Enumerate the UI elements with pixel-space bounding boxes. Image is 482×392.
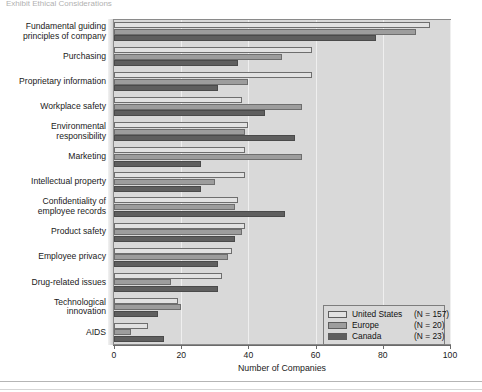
- bar-us-3: [114, 97, 242, 103]
- bar-us-7: [114, 197, 238, 203]
- legend-n-united-states: (N = 157): [414, 309, 449, 319]
- category-label-line: Intellectual property: [0, 177, 106, 187]
- category-label-10: Drug-related issues: [0, 278, 106, 288]
- bar-eu-10: [114, 279, 171, 285]
- bar-group-0: [113, 19, 451, 44]
- bar-eu-1: [114, 54, 282, 60]
- bar-group-4: [113, 119, 451, 144]
- category-label-11: Technologicalinnovation: [0, 298, 106, 317]
- category-label-8: Product safety: [0, 227, 106, 237]
- category-label-line: Purchasing: [0, 52, 106, 62]
- bar-eu-2: [114, 79, 248, 85]
- bar-group-2: [113, 69, 451, 94]
- category-label-line: AIDS: [0, 328, 106, 338]
- category-label-4: Environmentalresponsibility: [0, 122, 106, 141]
- x-tick-label-60: 60: [301, 350, 331, 360]
- x-tick-label-100: 100: [435, 350, 465, 360]
- bar-us-5: [114, 147, 245, 153]
- bar-group-6: [113, 169, 451, 194]
- category-label-3: Workplace safety: [0, 102, 106, 112]
- chart-figure: Fundamental guidingprinciples of company…: [0, 8, 482, 380]
- bar-us-11: [114, 298, 178, 304]
- bar-group-3: [113, 94, 451, 119]
- bar-eu-6: [114, 179, 215, 185]
- category-label-7: Confidentiality ofemployee records: [0, 197, 106, 216]
- bar-eu-9: [114, 254, 228, 260]
- category-label-line: Drug-related issues: [0, 278, 106, 288]
- legend-swatch-europe: [328, 322, 347, 329]
- legend-n-europe: (N = 20): [414, 320, 445, 330]
- bar-us-0: [114, 22, 430, 28]
- bar-us-9: [114, 248, 232, 254]
- category-label-5: Marketing: [0, 152, 106, 162]
- x-tick-label-80: 80: [368, 350, 398, 360]
- bar-group-9: [113, 245, 451, 270]
- bar-ca-6: [114, 186, 201, 192]
- category-label-line: Marketing: [0, 152, 106, 162]
- category-label-line: principles of company: [0, 32, 106, 42]
- legend-item-canada: Canada (N = 23): [328, 331, 440, 341]
- bar-eu-7: [114, 204, 235, 210]
- bar-ca-11: [114, 311, 158, 317]
- bar-eu-11: [114, 304, 181, 310]
- bar-eu-3: [114, 104, 302, 110]
- bar-ca-9: [114, 261, 218, 267]
- category-axis-labels: Fundamental guidingprinciples of company…: [0, 19, 106, 345]
- bar-us-4: [114, 122, 248, 128]
- category-label-line: Product safety: [0, 227, 106, 237]
- category-label-2: Proprietary information: [0, 77, 106, 87]
- x-tick-0: [114, 345, 115, 349]
- legend-item-united-states: United States (N = 157): [328, 309, 440, 319]
- legend-label-united-states: United States: [352, 309, 414, 319]
- category-label-line: responsibility: [0, 132, 106, 142]
- bar-ca-1: [114, 60, 238, 66]
- legend[interactable]: United States (N = 157) Europe (N = 20) …: [323, 305, 445, 345]
- footer-rule-2: [0, 389, 482, 390]
- bar-ca-0: [114, 35, 376, 41]
- bar-us-1: [114, 47, 312, 53]
- bar-ca-3: [114, 110, 265, 116]
- bar-ca-8: [114, 236, 235, 242]
- clipped-header-text: Exhibit Ethical Considerations: [6, 0, 206, 7]
- category-label-12: AIDS: [0, 328, 106, 338]
- legend-swatch-united-states: [328, 311, 347, 318]
- footer-rule-1: [0, 381, 482, 382]
- bar-ca-7: [114, 211, 285, 217]
- bar-group-10: [113, 270, 451, 295]
- bar-ca-12: [114, 336, 164, 342]
- category-label-line: Proprietary information: [0, 77, 106, 87]
- x-tick-40: [248, 345, 249, 349]
- bar-us-8: [114, 223, 245, 229]
- legend-n-canada: (N = 23): [414, 331, 445, 341]
- category-label-6: Intellectual property: [0, 177, 106, 187]
- legend-label-canada: Canada: [352, 331, 414, 341]
- bar-ca-2: [114, 85, 218, 91]
- category-label-line: Workplace safety: [0, 102, 106, 112]
- category-label-0: Fundamental guidingprinciples of company: [0, 22, 106, 41]
- category-label-line: innovation: [0, 307, 106, 317]
- category-label-1: Purchasing: [0, 52, 106, 62]
- x-tick-label-0: 0: [99, 350, 129, 360]
- bar-us-2: [114, 72, 312, 78]
- category-label-line: employee records: [0, 207, 106, 217]
- x-tick-100: [450, 345, 451, 349]
- category-label-line: Employee privacy: [0, 252, 106, 262]
- bar-us-10: [114, 273, 222, 279]
- legend-swatch-canada: [328, 333, 347, 340]
- legend-item-europe: Europe (N = 20): [328, 320, 440, 330]
- x-tick-80: [383, 345, 384, 349]
- bar-eu-8: [114, 229, 242, 235]
- bar-ca-4: [114, 135, 295, 141]
- x-axis-line: [113, 345, 451, 346]
- bar-us-12: [114, 323, 148, 329]
- x-axis-title: Number of Companies: [113, 363, 451, 373]
- bar-group-8: [113, 220, 451, 245]
- bar-ca-10: [114, 286, 218, 292]
- bar-eu-0: [114, 29, 416, 35]
- bar-group-5: [113, 144, 451, 169]
- bar-eu-5: [114, 154, 302, 160]
- bar-group-1: [113, 44, 451, 69]
- bar-eu-12: [114, 329, 131, 335]
- x-tick-label-20: 20: [166, 350, 196, 360]
- x-tick-label-40: 40: [233, 350, 263, 360]
